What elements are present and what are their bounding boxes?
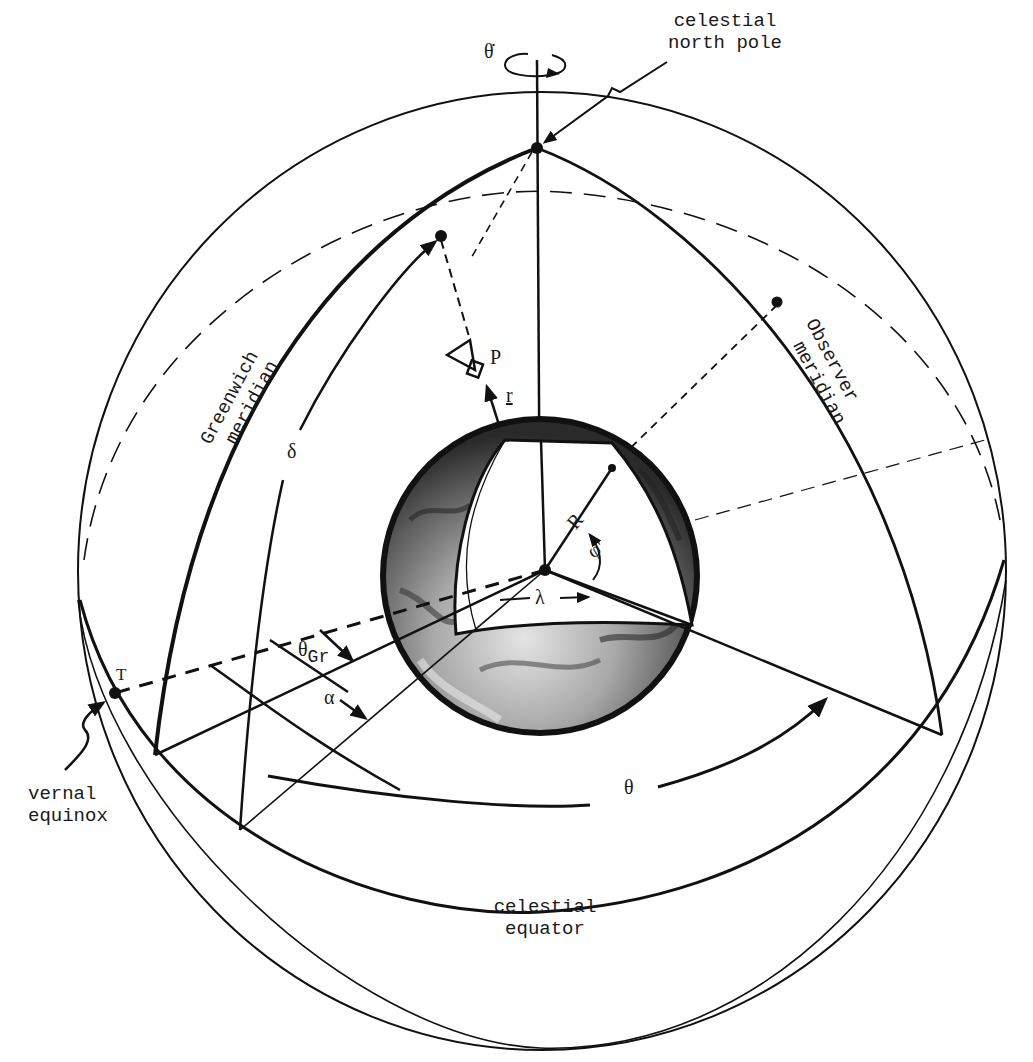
celestial-equator-line1: celestial	[480, 896, 610, 918]
satellite-label: P	[490, 346, 501, 368]
celestial-north-pole-line1: celestial	[655, 10, 795, 32]
greenwich-sidereal-label: θGr	[298, 638, 329, 662]
theta-gr-sub: Gr	[308, 647, 330, 667]
pole-to-point-dashed	[470, 152, 532, 260]
theta-gr-main: θ	[298, 638, 308, 660]
vernal-line2: equinox	[28, 805, 108, 827]
celestial-equator-line2: equator	[480, 918, 610, 940]
vernal-equinox-point	[109, 687, 121, 699]
position-vector-label: r	[506, 384, 513, 406]
vernal-equinox-label: vernal equinox	[28, 783, 108, 827]
celestial-north-pole-label: celestial north pole	[655, 10, 795, 54]
theta-dot-label: θ̇	[484, 40, 494, 62]
vernal-equinox-symbol: T	[116, 664, 126, 686]
celestial-equator-label: celestial equator	[480, 896, 610, 940]
right-ascension-label: α	[324, 686, 334, 708]
declination-arc	[300, 242, 435, 430]
celestial-north-pole-line2: north pole	[655, 32, 795, 54]
sidereal-angle-label: θ	[624, 776, 634, 798]
vernal-line1: vernal	[28, 783, 108, 805]
declination-label: δ	[287, 440, 296, 462]
vernal-pointer	[65, 703, 103, 770]
sidereal-angle-arc	[268, 776, 590, 806]
north-pole-pointer	[545, 62, 667, 142]
longitude-label: λ	[535, 586, 545, 608]
